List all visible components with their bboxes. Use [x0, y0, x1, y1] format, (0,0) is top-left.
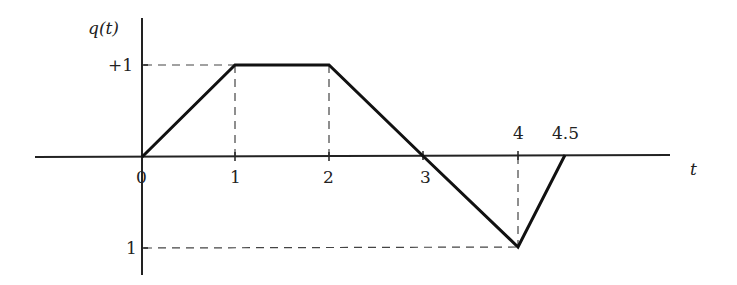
x-axis-label: t — [690, 159, 697, 179]
x-tick-1: 1 — [230, 167, 241, 187]
y-tick-plus-one: +1 — [108, 55, 133, 75]
x-tick-2: 2 — [323, 167, 334, 187]
x-tick-4-5: 4.5 — [552, 123, 579, 143]
x-tick-4: 4 — [513, 123, 524, 143]
x-tick-3: 3 — [420, 167, 431, 187]
y-axis-label: q(t) — [88, 18, 119, 38]
x-axis — [35, 155, 670, 157]
x-tick-0: 0 — [136, 167, 147, 187]
y-tick-minus-one: 1 — [126, 238, 137, 258]
waveform-chart: q(t) t +1 1 0 1 2 3 4 4.5 — [0, 0, 737, 285]
